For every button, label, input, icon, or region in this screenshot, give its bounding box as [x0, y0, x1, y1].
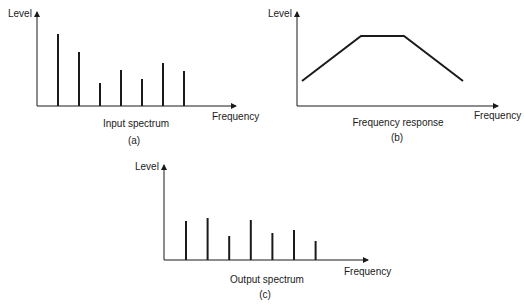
panel-title: Input spectrum — [103, 118, 169, 129]
y-axis-label: Level — [8, 8, 32, 19]
panel-output-spectrum: Level Frequency Output spectrum (c) — [135, 161, 391, 300]
panel-caption: (c) — [259, 289, 271, 300]
spectrum-diagram: Level Frequency Input spectrum (a) Level… — [0, 0, 524, 306]
frequency-response-curve — [302, 36, 463, 81]
input-spectrum-bars — [58, 34, 184, 106]
panel-title: Frequency response — [352, 117, 444, 128]
panel-frequency-response: Level Frequency Frequency response (b) — [268, 8, 521, 143]
x-axis-label: Frequency — [474, 110, 521, 121]
x-axis-label: Frequency — [212, 111, 259, 122]
output-spectrum-bars — [186, 218, 316, 260]
y-axis-label: Level — [135, 161, 159, 172]
panel-caption: (b) — [391, 132, 403, 143]
panel-title: Output spectrum — [230, 274, 304, 285]
y-axis-label: Level — [268, 8, 292, 19]
panel-input-spectrum: Level Frequency Input spectrum (a) — [8, 8, 259, 146]
panel-caption: (a) — [128, 135, 140, 146]
x-axis-label: Frequency — [344, 266, 391, 277]
